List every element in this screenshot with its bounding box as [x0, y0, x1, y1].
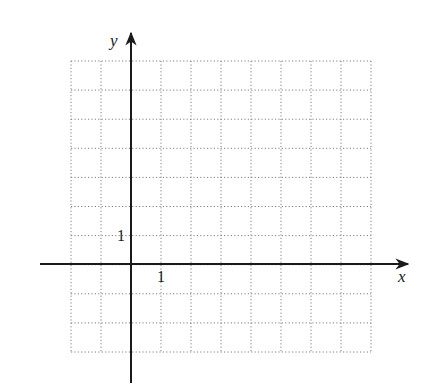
y-axis-label: y [108, 31, 118, 50]
x-axis-label: x [397, 267, 406, 286]
coordinate-grid: y x 1 1 [0, 0, 438, 392]
x-unit-tick-label: 1 [157, 268, 165, 285]
dotted-grid [71, 61, 371, 352]
y-unit-tick-label: 1 [117, 227, 125, 244]
